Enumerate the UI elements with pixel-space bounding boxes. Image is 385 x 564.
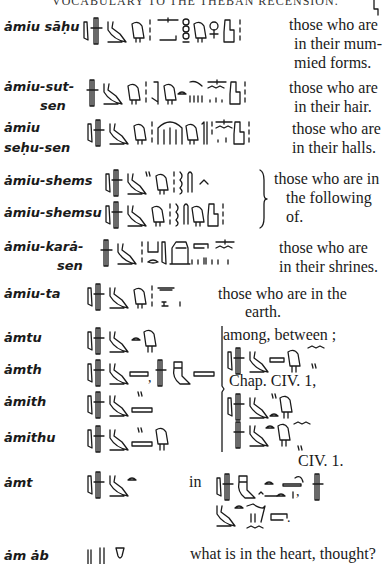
hieroglyph-group xyxy=(104,200,234,230)
entry-term: ȧmiu-sut- xyxy=(4,79,74,95)
definition-line: in their shrines. xyxy=(279,258,378,276)
hieroglyph-group: . xyxy=(215,500,325,532)
definition-line: among, between ; xyxy=(223,326,336,344)
comma-separator: , xyxy=(148,370,152,385)
hieroglyph-group xyxy=(86,282,196,314)
definition-line: in their mum- xyxy=(294,35,382,53)
entry-term: ȧmith xyxy=(4,394,46,410)
entry-term-continuation: sen xyxy=(40,98,66,114)
hieroglyph-group xyxy=(82,16,252,46)
entry-term-variant: ȧmiu-shemsu xyxy=(4,205,102,221)
definition-line: of. xyxy=(286,208,303,226)
definition-line: those who are xyxy=(289,16,378,34)
hieroglyph-group: , xyxy=(86,358,216,388)
hieroglyph-group xyxy=(86,424,196,456)
definition-line: those who are xyxy=(292,120,381,138)
chapter-reference: Chap. CIV. 1, xyxy=(229,372,316,390)
hieroglyph-reference-group xyxy=(226,420,385,452)
hieroglyph-group: , xyxy=(215,472,385,502)
entry-term: ȧmiu-karȧ- xyxy=(4,239,83,255)
entry-term: ȧm ȧb xyxy=(4,548,49,564)
definition-line: the following xyxy=(286,189,372,207)
definition-line: what is in the heart, thought? xyxy=(190,545,376,563)
entry-term-continuation: sen xyxy=(57,258,83,274)
definition-line: those who are in the xyxy=(218,285,347,303)
hieroglyph-group xyxy=(100,238,280,268)
entry-term-continuation: seḥu-sen xyxy=(4,140,70,156)
hieroglyph-group xyxy=(86,118,256,150)
entry-term: ȧmiu xyxy=(4,120,40,136)
entry-term: ȧmiu sāḥu xyxy=(4,19,80,35)
hieroglyph-reference-group xyxy=(226,392,385,422)
left-bracket xyxy=(218,326,226,456)
entry-term: ȧmtu xyxy=(4,330,42,346)
definition-line: those who are in xyxy=(274,170,379,188)
entry-term: ȧmithu xyxy=(4,430,56,446)
definition-prefix: in xyxy=(189,473,201,491)
hieroglyph-group xyxy=(86,544,136,564)
hieroglyph-group xyxy=(104,168,234,198)
period-mark: . xyxy=(287,510,291,525)
definition-line: earth. xyxy=(245,303,281,321)
comma-separator: , xyxy=(296,484,300,499)
definition-line: in their hair. xyxy=(294,98,372,116)
entry-term: ȧmt xyxy=(4,475,33,491)
definition-line: those who are xyxy=(289,79,378,97)
entry-term: ȧmiu-shems xyxy=(4,173,93,189)
chapter-reference: CIV. 1. xyxy=(298,452,344,470)
right-brace xyxy=(258,168,268,234)
running-header: VOCABULARY TO THE THEBAN RECENSION. xyxy=(52,0,352,9)
hieroglyph-group xyxy=(86,78,256,108)
definition-line: mied forms. xyxy=(294,54,371,72)
entry-term: ȧmth xyxy=(4,362,42,378)
definition-line: those who are xyxy=(279,239,368,257)
hieroglyph-group xyxy=(86,390,176,420)
hieroglyph-group xyxy=(86,470,146,500)
hieroglyph-group xyxy=(86,326,176,356)
entry-term: ȧmiu-ta xyxy=(4,286,60,302)
definition-line: in their halls. xyxy=(292,139,376,157)
